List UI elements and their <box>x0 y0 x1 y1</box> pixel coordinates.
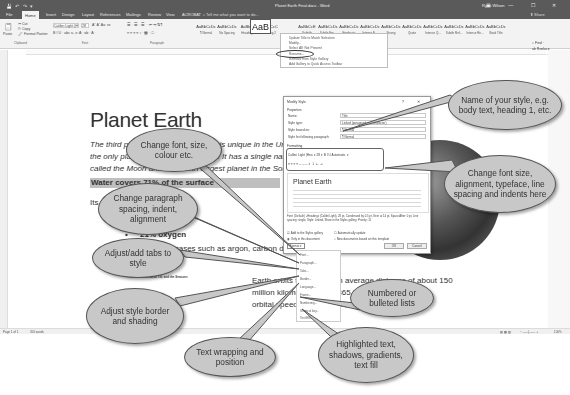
modify-highlight-oval <box>276 50 314 58</box>
font-group-label: Font <box>82 41 88 45</box>
tab-mailings[interactable]: Mailings <box>126 12 141 17</box>
font-name-select[interactable]: Calibri Light (H <box>53 23 79 28</box>
following-paragraph-select[interactable]: ¶ Normal <box>340 134 426 139</box>
format-menu-frame[interactable]: Frame... <box>300 293 311 297</box>
paste-button[interactable]: Paste <box>3 32 12 36</box>
properties-label: Properties <box>287 108 302 112</box>
style-intense-reference[interactable]: AaBbCcDcIntense Re... <box>464 21 486 37</box>
modify-style-dialog: Modify Style ? ✕ Properties Name: Title … <box>283 96 431 254</box>
callout-text-effects: Highlighted text, shadows, gradients, te… <box>318 327 414 383</box>
callout-font: Change font, size, colour etc. <box>126 128 222 172</box>
style-title-selected[interactable]: AaB <box>250 19 271 34</box>
based-on-label: Style based on: <box>288 128 310 132</box>
doc-shaded-heading[interactable]: Water covers 71% of the surface <box>90 178 280 188</box>
list-buttons[interactable]: ☰ · ☰ · ☰ · ⇤ ⇥ ⇅ ¶ <box>127 23 163 27</box>
name-label: Name: <box>288 114 297 118</box>
tab-design[interactable]: Design <box>62 12 74 17</box>
copy-button[interactable]: ⎘ Copy <box>18 27 30 31</box>
callout-formatting: Change font size, alignment, typeface, l… <box>444 155 556 213</box>
callout-tabs: Adjust/add tabs to style <box>92 238 184 278</box>
doc-orbit-line-1[interactable]: Earth orbits the Sun at an average dista… <box>252 276 453 285</box>
style-normal[interactable]: AaBbCcDc¶ Normal <box>195 21 217 37</box>
format-menu-text-effects[interactable]: Text Effects... <box>300 316 318 320</box>
menu-update-to-match[interactable]: Update Title to Match Selection <box>289 36 335 40</box>
following-paragraph-label: Style for following paragraph: <box>288 135 329 139</box>
font-size-select[interactable]: 28 <box>81 23 89 28</box>
share-button[interactable]: ⬆ Share <box>530 12 545 17</box>
formatting-font-row[interactable]: Calibri Light (Hea ▾ 28 ▾ B I U Automati… <box>288 153 349 157</box>
only-this-document-radio[interactable]: ◉ Only in this document <box>287 237 320 241</box>
style-no-spacing[interactable]: AaBbCcDcNo Spacing <box>216 21 238 37</box>
preview-title: Planet Earth <box>293 178 332 185</box>
based-on-select[interactable]: ¶ Normal <box>340 127 426 132</box>
window-controls[interactable]: ▣ — ☐ ✕ <box>486 2 564 8</box>
word-count[interactable]: 301 words <box>30 330 44 334</box>
callout-numbering: Numbered or bulleted lists <box>350 279 434 317</box>
format-menu-font[interactable]: Font... <box>300 253 309 257</box>
tab-insert[interactable]: Insert <box>46 12 56 17</box>
format-button[interactable]: Format ▾ <box>287 243 305 249</box>
style-description: Font: (Default) +Headings (Calibri Light… <box>287 215 429 228</box>
tab-view[interactable]: View <box>166 12 175 17</box>
cancel-button[interactable]: Cancel <box>407 243 427 249</box>
quick-access-toolbar[interactable]: 💾 ↶ ↷ ▾ <box>6 3 34 9</box>
window-title: Planet Earth Final.docx - Word <box>275 3 329 8</box>
alignment-buttons[interactable]: ≡ ≡ ≡ ≡ ↕ · ▦ · □ · <box>127 31 156 35</box>
menu-modify[interactable]: Modify... <box>289 41 301 45</box>
new-documents-radio[interactable]: ○ New documents based on this template <box>334 237 389 241</box>
format-menu-numbering[interactable]: Numbering... <box>300 301 317 305</box>
formatting-alignment-row[interactable]: ≡ ≡ ≡ ≡ ═ ═ ═ ↥ ↧ ⇤ ⇥ <box>288 162 323 166</box>
callout-border-shading: Adjust style border and shading <box>86 288 184 344</box>
status-bar: Page 1 of 1 301 words ▤ ▦ ▧ − ——|—— + 10… <box>0 328 570 334</box>
dialog-title: Modify Style <box>287 100 306 104</box>
tab-review[interactable]: Review <box>148 12 161 17</box>
callout-text-wrapping: Text wrapping and position <box>184 337 276 377</box>
font-formatting-buttons[interactable]: B I U · abc x₂ x² A · ab · A · <box>53 31 96 35</box>
style-type-label: Style type: <box>288 121 303 125</box>
callout-paragraph: Change paragraph spacing, indent, alignm… <box>98 183 198 235</box>
tab-acrobat[interactable]: ACROBAT <box>182 12 201 17</box>
dialog-help-close[interactable]: ? ✕ <box>402 99 426 104</box>
format-menu-tabs[interactable]: Tabs... <box>300 269 309 273</box>
format-menu-paragraph[interactable]: Paragraph... <box>300 261 317 265</box>
style-name-input[interactable]: Title <box>340 113 426 118</box>
format-menu-language[interactable]: Language... <box>300 285 316 289</box>
style-preview: Planet Earth <box>287 173 429 213</box>
zoom-level[interactable]: 100% <box>554 330 562 334</box>
ok-button[interactable]: OK <box>384 243 404 249</box>
auto-update-checkbox[interactable]: ☐ Automatically update <box>334 231 366 235</box>
paste-icon[interactable]: 📋 <box>4 23 13 31</box>
formatting-highlight-box <box>286 148 384 171</box>
style-book-title[interactable]: AaBbCcDcBook Title <box>485 21 507 37</box>
clipboard-group-label: Clipboard <box>14 41 27 45</box>
ribbon-tabs: File Home Insert Design Layout Reference… <box>0 11 570 19</box>
tab-file[interactable]: File <box>6 12 12 17</box>
paragraph-group-label: Paragraph <box>150 41 164 45</box>
view-buttons[interactable]: ▤ ▦ ▧ <box>500 330 511 334</box>
tab-layout[interactable]: Layout <box>82 12 94 17</box>
vertical-ruler <box>0 50 8 328</box>
zoom-slider[interactable]: − ——|—— + <box>520 330 538 334</box>
style-type-select[interactable]: Linked (paragraph and character) <box>340 120 426 125</box>
format-menu-shortcut-key[interactable]: Shortcut key... <box>300 309 319 313</box>
title-bar: 💾 ↶ ↷ ▾ Planet Earth Final.docx - Word R… <box>0 0 570 11</box>
add-to-gallery-checkbox[interactable]: ☑ Add to the Styles gallery <box>287 231 323 235</box>
style-quote[interactable]: AaBbCcDcQuote <box>401 21 423 37</box>
cut-button[interactable]: ✂ Cut <box>18 22 28 26</box>
menu-add-gallery-qat[interactable]: Add Gallery to Quick Access Toolbar <box>289 62 342 66</box>
tab-references[interactable]: References <box>100 12 120 17</box>
callout-style-name: Name of your style, e.g. body text, head… <box>448 80 562 130</box>
style-intense-quote[interactable]: AaBbCcDcIntense Q... <box>422 21 444 37</box>
tell-me-search[interactable]: ⌕ Tell me what you want to do... <box>203 12 259 17</box>
font-grow-shrink[interactable]: Aˆ Aˇ Aa· ⚏ <box>92 23 111 27</box>
tab-home[interactable]: Home <box>22 11 39 19</box>
style-subtle-reference[interactable]: AaBbCcDcSubtle Ref... <box>443 21 465 37</box>
page-count[interactable]: Page 1 of 1 <box>3 330 18 334</box>
format-dropdown-menu: Font... Paragraph... Tabs... Border... L… <box>296 250 341 322</box>
format-painter-button[interactable]: 🖌 Format Painter <box>18 32 48 36</box>
format-menu-border[interactable]: Border... <box>300 277 311 281</box>
annotated-word-screenshot: 💾 ↶ ↷ ▾ Planet Earth Final.docx - Word R… <box>0 0 570 395</box>
